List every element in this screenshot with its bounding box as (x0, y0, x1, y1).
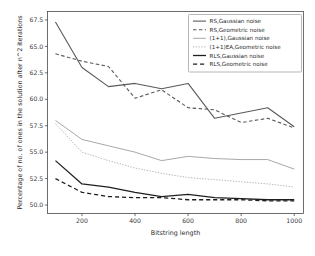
y-tick-label: 65.0 (30, 43, 44, 50)
chart-figure: 50.052.555.057.560.062.565.067.520040060… (0, 0, 315, 256)
x-tick-label: 800 (235, 217, 247, 224)
y-tick-label: 50.0 (30, 201, 44, 208)
y-tick-label: 62.5 (30, 69, 44, 76)
series-line-3 (55, 124, 294, 187)
y-axis-title: Percentage of no. of ones in the solutio… (16, 15, 24, 210)
legend-label-1: RS,Geometric noise (210, 27, 266, 33)
legend-label-3: (1+1)EA,Geometric noise (210, 44, 282, 50)
y-tick-label: 55.0 (30, 148, 44, 155)
x-axis-title: Bitstring length (151, 229, 200, 237)
y-tick-label: 52.5 (30, 175, 44, 182)
legend-label-2: (1+1),Gaussian noise (210, 35, 271, 41)
legend-label-0: RS,Gaussian noise (210, 18, 262, 24)
series-line-2 (55, 120, 294, 169)
legend-label-5: RLS,Geometric noise (210, 61, 269, 67)
x-tick-label: 400 (129, 217, 141, 224)
y-tick-label: 60.0 (30, 95, 44, 102)
x-tick-label: 600 (182, 217, 194, 224)
series-line-4 (55, 161, 294, 200)
y-tick-label: 57.5 (30, 122, 44, 129)
line-chart: 50.052.555.057.560.062.565.067.520040060… (0, 0, 315, 256)
x-tick-label: 200 (76, 217, 88, 224)
legend-label-4: RLS,Gaussian noise (210, 53, 265, 59)
y-tick-label: 67.5 (30, 16, 44, 23)
x-tick-label: 1000 (286, 217, 302, 224)
series-line-5 (55, 179, 294, 201)
